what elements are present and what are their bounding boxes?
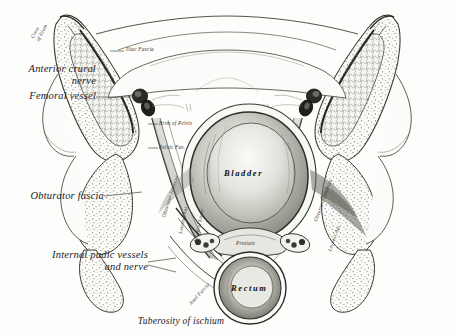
leader-pudic-1 xyxy=(148,258,176,262)
label-iliac-fascia: Iliac Fascia xyxy=(126,46,154,52)
label-femoral-vessel: Femoral vessel xyxy=(0,90,96,102)
label-obturator-fascia: Obturator fascia xyxy=(0,190,104,202)
label-rectum: Rectum xyxy=(231,283,268,293)
label-bladder: Bladder xyxy=(224,168,263,178)
figure-caption: Tuberosity of ischium xyxy=(86,315,276,326)
label-anterior-crural-nerve: Anterior crural nerve xyxy=(0,63,96,88)
label-prostate: Prostate xyxy=(236,240,255,246)
anatomical-figure: #efefec xyxy=(0,0,454,335)
left-femoral-bundle xyxy=(132,89,184,118)
label-brim-of-pelvis: Brim of Pelvis xyxy=(159,120,192,126)
right-hip-bone xyxy=(315,15,411,312)
leader-pudic-2 xyxy=(148,265,176,272)
label-pelvic-fascia: Pelvic Fas. xyxy=(159,144,185,150)
label-internal-pudic-vessels-and-nerve: Internal pudic vessels and nerve xyxy=(0,249,148,274)
